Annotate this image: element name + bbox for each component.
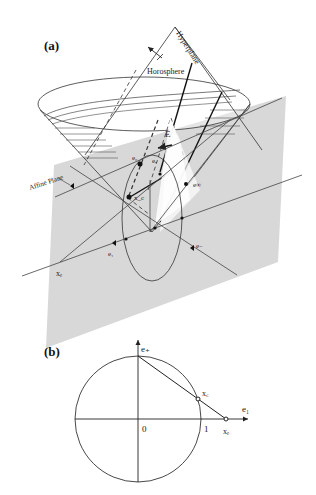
horosphere-label: Horosphere xyxy=(147,67,185,76)
xc-point-label: x꜀ xyxy=(202,389,209,398)
xe-label: xₑ xyxy=(56,269,62,278)
panel-a-label: (a) xyxy=(44,38,59,53)
projection-line xyxy=(138,356,226,419)
E-label: E xyxy=(165,129,171,139)
e1-label: e₁ xyxy=(108,250,114,258)
eminus-label: e₋ xyxy=(196,242,203,250)
one-label: 1 xyxy=(204,424,209,434)
panel-b: (b) e₊ e₁ x꜀ xₑ 0 1 xyxy=(44,340,249,482)
xc-label: x_c xyxy=(134,194,144,202)
e1-axis-label: e₁ xyxy=(242,404,249,414)
e0-label: e₀ xyxy=(132,154,138,162)
figure-canvas: (a) Hyperplane Horosphere xyxy=(0,0,316,495)
hyperplane-label: Hyperplane xyxy=(174,29,202,66)
einf-label: e∞ xyxy=(193,181,201,189)
ea-label: eₐ xyxy=(152,157,157,165)
point-xc xyxy=(196,397,200,401)
origin-label: 0 xyxy=(142,424,147,434)
eplus-label: e₊ xyxy=(141,344,150,354)
xe-point-label: xₑ xyxy=(223,427,229,436)
panel-a: (a) Hyperplane Horosphere xyxy=(22,27,302,348)
panel-b-label: (b) xyxy=(44,344,60,359)
point-xe xyxy=(224,417,228,421)
